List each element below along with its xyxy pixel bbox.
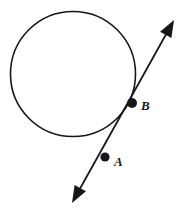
secant-line	[79, 32, 168, 191]
point-a-label: A	[114, 155, 123, 168]
point-b-marker	[127, 98, 137, 108]
point-a-marker	[100, 152, 109, 161]
arrowhead-up-right-icon	[160, 20, 174, 38]
point-b-label: B	[141, 99, 150, 112]
figure-canvas	[0, 0, 184, 214]
geometry-figure: B A	[0, 0, 184, 214]
arrowhead-down-left-icon	[72, 185, 86, 203]
circle-shape	[11, 12, 136, 137]
